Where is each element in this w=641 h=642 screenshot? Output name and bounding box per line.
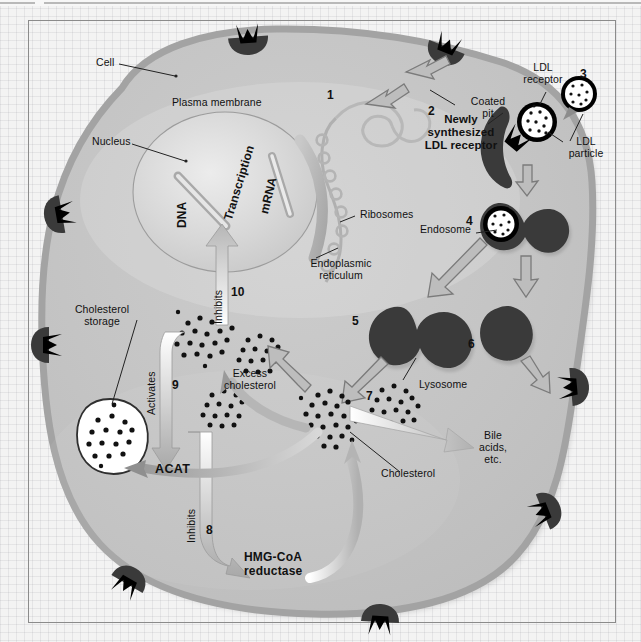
step-number-7: 7 [366,390,373,403]
label-acat: ACAT [155,462,190,476]
label-endoplasmic-reticulum: Endoplasmic reticulum [295,258,387,282]
step-number-3: 3 [580,68,587,81]
label-coated-pit: Coated pit [465,96,511,120]
label-bile-acids: Bile acids, etc. [470,430,516,465]
label-ldl-particle: LDL particle [562,136,610,160]
step-number-8: 8 [206,524,213,537]
label-cholesterol: Cholesterol [381,468,435,480]
label-dna: DNA [176,202,189,228]
ldl-particle-free [561,76,597,120]
label-hmg-coa-reductase: HMG-CoA reductase [244,550,303,578]
label-inhibits-8: Inhibits [186,509,198,543]
step-number-2: 2 [428,105,435,118]
label-cholesterol-storage: Cholesterol storage [62,304,142,328]
step-number-6: 6 [468,338,475,351]
ldl-particle-bound [517,102,557,142]
label-activates: Activates [146,372,158,416]
label-excess-cholesterol: Excess cholesterol [215,368,285,392]
step-number-5: 5 [352,315,359,328]
label-endosome: Endosome [420,224,471,236]
step-number-1: 1 [327,89,334,102]
label-ldl-receptor: LDL receptor [520,62,566,86]
label-lysosome: Lysosome [419,379,467,391]
label-plasma-membrane: Plasma membrane [172,97,262,109]
label-inhibits-10: Inhibits [213,290,225,324]
step-number-9: 9 [172,379,179,392]
label-cell: Cell [96,57,115,69]
label-ribosomes: Ribosomes [360,209,413,221]
cholesterol-storage-droplet [77,399,148,474]
label-nucleus: Nucleus [92,136,131,148]
step-number-4: 4 [466,215,473,228]
step-number-10: 10 [231,286,245,299]
